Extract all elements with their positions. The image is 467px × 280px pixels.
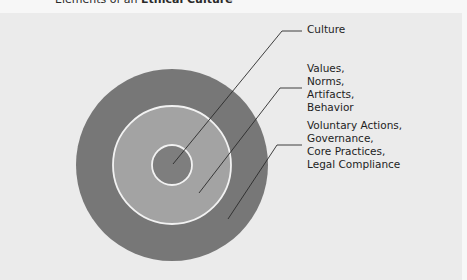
callout-culture: Culture <box>307 23 345 36</box>
figure-page: Elements of an Ethical Culture Culture V… <box>0 0 467 280</box>
callout-actions-line: Governance, <box>307 132 402 145</box>
callout-values: Values, Norms, Artifacts, Behavior <box>307 62 354 114</box>
callout-values-line: Behavior <box>307 101 354 114</box>
callout-values-line: Values, <box>307 62 354 75</box>
callout-actions-line: Legal Compliance <box>307 158 402 171</box>
callout-culture-line: Culture <box>307 23 345 36</box>
callout-values-line: Norms, <box>307 75 354 88</box>
callout-actions: Voluntary Actions, Governance, Core Prac… <box>307 119 402 171</box>
inner-core-culture <box>152 145 192 185</box>
callout-actions-line: Voluntary Actions, <box>307 119 402 132</box>
callout-values-line: Artifacts, <box>307 88 354 101</box>
callout-actions-line: Core Practices, <box>307 145 402 158</box>
